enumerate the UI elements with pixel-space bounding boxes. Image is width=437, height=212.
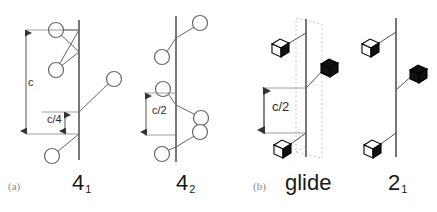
symbol-4-2-base: 4	[176, 170, 188, 195]
node-cube-glide-3	[274, 140, 291, 158]
node-circle-4-2-6	[155, 147, 170, 162]
symbol-4-1-sub: 1	[85, 183, 91, 195]
symbol-2-1-base: 2	[388, 170, 400, 195]
crystallography-symmetry-figure: (a) (b) c c/4 c/2 c/2 41 42 glide 21	[0, 0, 437, 212]
symbol-label-2-1: 21	[388, 170, 406, 196]
arm-4-1-d	[57, 134, 79, 152]
diagram-4-1	[26, 20, 122, 164]
diagram-4-2	[144, 16, 209, 163]
symbol-label-glide: glide	[285, 170, 331, 196]
arm-4-1-c	[79, 82, 110, 112]
symbol-2-1-sub: 1	[401, 183, 407, 195]
arm-4-2-b	[166, 38, 176, 53]
node-circle-4-1-4	[45, 149, 60, 164]
symbol-label-4-2: 42	[176, 170, 194, 196]
diagram-glide	[262, 18, 338, 158]
node-cube-2-1-2	[410, 65, 427, 83]
diagram-2-1	[362, 18, 427, 158]
symbol-4-2-sub: 2	[189, 183, 195, 195]
node-circle-4-2-1	[193, 16, 208, 31]
dimension-label-c-over-4: c/4	[47, 113, 62, 125]
node-circle-4-2-3	[156, 82, 171, 97]
arm-4-2-a	[176, 26, 196, 38]
node-circle-4-2-4	[194, 111, 209, 126]
panel-tag-a: (a)	[8, 180, 20, 192]
node-circle-4-2-2	[155, 50, 170, 65]
node-circle-4-1-3	[107, 72, 122, 87]
node-cube-2-1-1	[362, 39, 379, 57]
symbol-4-1-base: 4	[72, 170, 84, 195]
dimension-label-c-over-2-b: c/2	[272, 99, 289, 114]
panel-tag-b: (b)	[253, 180, 266, 192]
arm-4-2-d	[176, 105, 196, 115]
node-circle-4-1-2	[49, 63, 64, 78]
node-cube-glide-1	[272, 39, 289, 57]
node-cube-2-1-3	[364, 140, 381, 158]
node-cube-glide-2	[321, 59, 338, 77]
node-circle-4-2-5	[193, 125, 208, 140]
glide-plane-inner-edge	[296, 146, 306, 152]
dimension-label-c: c	[28, 76, 34, 88]
dimension-label-c-over-2-a: c/2	[152, 104, 167, 116]
figure-canvas	[0, 0, 437, 212]
symbol-label-4-1: 41	[72, 170, 90, 196]
arm-4-2-e	[176, 135, 196, 147]
